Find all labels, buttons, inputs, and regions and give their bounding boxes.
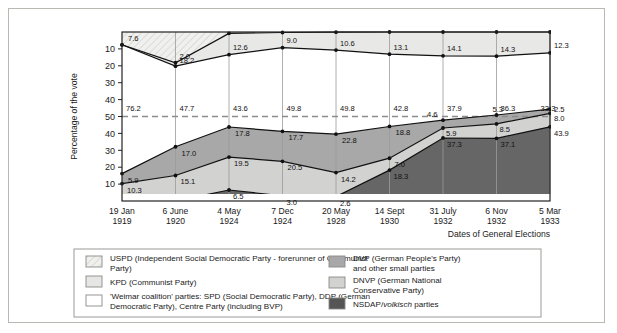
data-point-marker: [334, 132, 338, 136]
x-tick-label-year: 1920: [166, 216, 185, 226]
value-label-weimar: 42.8: [394, 104, 409, 113]
data-point-marker: [388, 125, 392, 129]
data-point-marker: [441, 136, 445, 140]
x-tick-label-day: 7 Dec: [271, 206, 294, 216]
value-label-dnvp: 14.2: [341, 175, 356, 184]
data-point-marker: [334, 171, 338, 175]
value-label-nsdap: 6.5: [233, 192, 244, 201]
x-tick-label-year: 1919: [112, 216, 131, 226]
value-label-weimar: 49.8: [287, 104, 302, 113]
value-label-kpd: 9.0: [287, 36, 298, 45]
y-axis: 102030405040302010: [105, 44, 122, 189]
x-tick-label-day: 31 July: [429, 206, 457, 216]
value-label-nsdap: 18.3: [394, 172, 409, 181]
y-tick-label: 10: [105, 179, 115, 189]
data-point-marker: [495, 136, 499, 140]
x-tick-label-year: 1930: [380, 216, 399, 226]
x-tick-label-year: 1928: [326, 216, 345, 226]
value-label-kpd: 13.1: [394, 43, 409, 52]
value-label-dvp: 17.7: [289, 133, 304, 142]
chart-container: 102030405040302010Percentage of the vote…: [9, 9, 606, 324]
y-tick-label: 50: [105, 112, 115, 122]
x-tick-label-day: 4 May: [217, 206, 241, 216]
legend-swatch-weimar: [86, 295, 102, 306]
data-point-marker: [388, 168, 392, 172]
election-results-area-chart: 102030405040302010Percentage of the vote…: [9, 9, 606, 324]
value-label-dvp: 5.9: [128, 176, 139, 185]
legend-swatch-dvp: [329, 256, 345, 267]
legend: USPD (Independent Social Democratic Part…: [74, 249, 541, 317]
value-label-dnvp: 10.3: [127, 186, 142, 195]
value-label-kpd: 2.0: [180, 52, 191, 61]
y-axis-title: Percentage of the vote: [69, 73, 79, 160]
legend-label-nsdap: NSDAP/volkisch parties: [353, 300, 438, 309]
y-tick-label: 40: [105, 129, 115, 139]
legend-label-kpd: KPD (Communist Party): [110, 278, 197, 287]
data-point-marker: [495, 122, 499, 126]
data-point-marker: [388, 156, 392, 160]
value-label-kpd: 12.3: [554, 41, 569, 50]
x-axis: 19 Jan19196 June19204 May19247 Dec192420…: [109, 206, 561, 239]
legend-label-dnvp: DNVP (German National: [353, 276, 442, 285]
y-tick-label: 30: [105, 78, 115, 88]
data-point-marker: [388, 52, 392, 56]
data-point-marker: [441, 118, 445, 122]
value-label-dvp: 17.0: [182, 149, 197, 158]
value-label-dvp: 17.8: [235, 129, 250, 138]
x-axis-title: Dates of General Elections: [448, 229, 550, 239]
x-tick-label-year: 1933: [540, 216, 559, 226]
y-tick-label: 20: [105, 162, 115, 172]
x-tick-label-year: 1932: [487, 216, 506, 226]
legend-label-dvp-line2: and other small parties: [353, 264, 435, 273]
data-point-marker: [281, 194, 285, 198]
value-label-dnvp: 20.5: [288, 163, 303, 172]
data-point-marker: [227, 125, 231, 129]
y-tick-label: 30: [105, 146, 115, 156]
data-point-marker: [174, 61, 178, 65]
x-tick-label-year: 1924: [219, 216, 238, 226]
value-label-kpd: 10.6: [340, 39, 355, 48]
data-point-marker: [441, 54, 445, 58]
data-point-marker: [227, 53, 231, 57]
legend-label-uspd-line2: Party): [110, 264, 132, 273]
data-point-marker: [174, 174, 178, 178]
y-tick-label: 20: [105, 61, 115, 71]
legend-swatch-dnvp: [329, 277, 345, 288]
data-point-marker: [281, 129, 285, 133]
value-label-dnvp: 8.0: [554, 114, 565, 123]
x-tick-label-day: 14 Sept: [375, 206, 405, 216]
value-label-dnvp: 19.5: [234, 159, 249, 168]
data-point-marker: [281, 159, 285, 163]
y-tick-label: 40: [105, 95, 115, 105]
legend-label-dvp: DVP (German People's Party): [353, 254, 461, 263]
value-label-dvp: 22.8: [342, 136, 357, 145]
data-point-marker: [441, 126, 445, 130]
value-label-weimar: 43.6: [233, 104, 248, 113]
x-tick-label-year: 1924: [273, 216, 292, 226]
x-tick-label-day: 6 Nov: [485, 206, 508, 216]
value-label-nsdap: 37.3: [447, 140, 462, 149]
legend-swatch-kpd: [86, 276, 102, 287]
value-label-weimar: 47.7: [180, 104, 195, 113]
data-point-marker: [227, 188, 231, 192]
value-label-kpd: 14.1: [447, 44, 462, 53]
value-label-nsdap: 37.1: [501, 140, 516, 149]
data-point-marker: [174, 145, 178, 149]
x-tick-label-day: 19 Jan: [109, 206, 135, 216]
legend-swatch-uspd: [86, 256, 102, 267]
value-label-nsdap: 3.0: [287, 198, 298, 207]
value-label-weimar: 37.9: [447, 104, 462, 113]
legend-swatch-nsdap: [329, 298, 345, 309]
data-point-marker: [174, 64, 178, 68]
data-point-marker: [227, 155, 231, 159]
value-label-dvp: 2.5: [554, 105, 565, 114]
x-tick-label-year: 1932: [433, 216, 452, 226]
value-label-dvp: 18.8: [396, 128, 411, 137]
value-label-weimar: 76.2: [126, 104, 141, 113]
data-point-marker: [334, 48, 338, 52]
value-label-nsdap: 2.6: [340, 199, 351, 208]
legend-label-dnvp-line2: Conservative Party): [353, 286, 424, 295]
data-point-marker: [281, 46, 285, 50]
value-label-dvp: 5.3: [493, 105, 504, 114]
y-tick-label: 10: [105, 44, 115, 54]
